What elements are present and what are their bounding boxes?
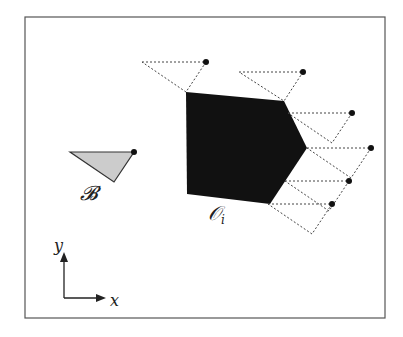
reference-point-dot xyxy=(346,178,352,184)
reference-point-dot xyxy=(203,59,209,65)
reference-point-dot xyxy=(329,201,335,207)
reference-point-dot xyxy=(349,110,355,116)
reference-point-dot xyxy=(368,145,374,151)
x-axis-label: x xyxy=(110,291,119,310)
reference-point-dot xyxy=(300,69,306,75)
y-axis-label: y xyxy=(53,236,64,255)
robot-reference-dot xyxy=(131,149,137,155)
obstacle-label-subscript: i xyxy=(221,213,225,227)
figure-canvas: 𝓑 𝒪i y x xyxy=(0,0,403,337)
